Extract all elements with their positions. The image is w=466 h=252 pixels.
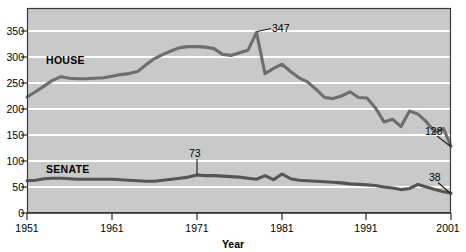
annotation-senate-peak-73: 73 bbox=[189, 148, 201, 159]
y-tick-50: 50 bbox=[0, 182, 24, 192]
series-label-senate: SENATE bbox=[46, 163, 90, 175]
y-tick-250: 250 bbox=[0, 78, 24, 88]
y-tick-300: 300 bbox=[0, 52, 24, 62]
y-tick-0: 0 bbox=[0, 208, 24, 218]
y-tick-150: 150 bbox=[0, 130, 24, 140]
chart-container: 350 300 250 200 150 100 50 0 1951 1961 1… bbox=[0, 0, 466, 252]
x-tick-1981: 1981 bbox=[262, 223, 302, 234]
x-tick-1971: 1971 bbox=[177, 223, 217, 234]
y-tick-200: 200 bbox=[0, 104, 24, 114]
annotation-senate-end-38: 38 bbox=[429, 172, 441, 183]
annotation-house-end-128: 128 bbox=[425, 126, 443, 137]
x-tick-2001: 2001 bbox=[428, 223, 466, 234]
annotation-house-peak-347: 347 bbox=[272, 23, 290, 34]
x-tick-1961: 1961 bbox=[92, 223, 132, 234]
plot-area bbox=[27, 8, 451, 213]
x-axis bbox=[27, 213, 451, 220]
x-tick-1951: 1951 bbox=[7, 223, 47, 234]
series-label-house: HOUSE bbox=[46, 54, 85, 66]
x-axis-title: Year bbox=[203, 238, 263, 250]
y-tick-100: 100 bbox=[0, 156, 24, 166]
y-tick-350: 350 bbox=[0, 26, 24, 36]
y-axis-labels: 350 300 250 200 150 100 50 0 bbox=[0, 0, 24, 252]
x-tick-1991: 1991 bbox=[346, 223, 386, 234]
